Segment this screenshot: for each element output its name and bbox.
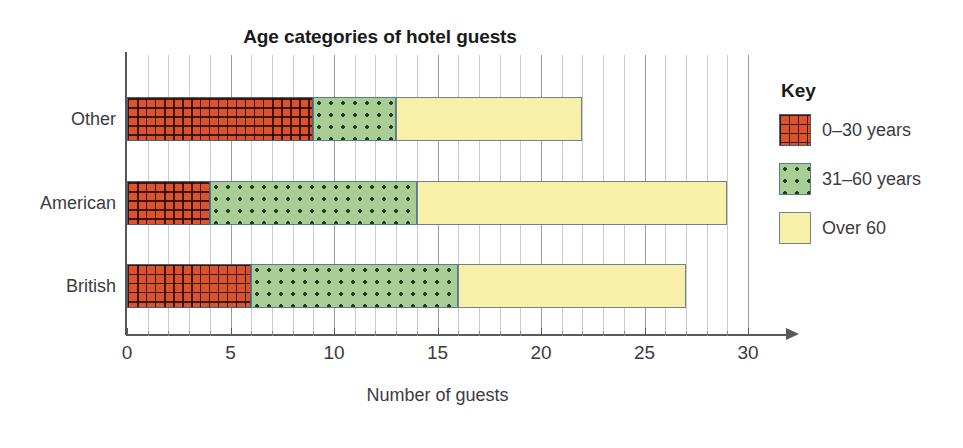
legend-label: 0–30 years [822,120,911,141]
bar-british [127,264,686,308]
bar-segment-british-series-2 [458,264,686,308]
bar-segment-other-series-0 [127,97,313,141]
x-axis-minor-tick [707,331,708,336]
x-axis-tick-label: 25 [634,342,655,364]
x-axis-minor-tick [313,331,314,336]
x-axis-tick [438,328,439,336]
bar-other [127,97,582,141]
x-axis-minor-tick [458,331,459,336]
x-axis-minor-tick [168,331,169,336]
legend-label: 31–60 years [822,169,921,190]
bar-chart: Age categories of hotel guests 051015202… [0,0,963,448]
x-axis-minor-tick [417,331,418,336]
y-axis-category-label-other: Other [0,108,116,129]
x-axis-tick-label: 0 [122,342,133,364]
x-axis-minor-tick [375,331,376,336]
legend-item: 0–30 years [779,114,921,146]
x-axis-minor-tick [520,331,521,336]
x-axis-tick [748,328,749,336]
x-axis-minor-tick [603,331,604,336]
x-axis-minor-tick [665,331,666,336]
y-axis-category-label-british: British [0,275,116,296]
legend-swatch-0 [779,114,811,146]
x-axis-tick-label: 20 [530,342,551,364]
x-axis-minor-tick [251,331,252,336]
x-axis-tick-label: 5 [225,342,236,364]
x-axis-minor-tick [500,331,501,336]
chart-title: Age categories of hotel guests [0,26,760,48]
bar-segment-other-series-1 [313,97,396,141]
x-axis-minor-tick [293,331,294,336]
gridline [727,55,728,332]
legend-item: 31–60 years [779,163,921,195]
bar-american [127,181,727,225]
x-axis-tick [334,328,335,336]
bar-segment-american-series-2 [417,181,728,225]
x-axis-minor-tick [396,331,397,336]
legend-title: Key [781,80,921,102]
x-axis-minor-tick [562,331,563,336]
x-axis-minor-tick [686,331,687,336]
x-axis-minor-tick [148,331,149,336]
x-axis-tick [231,328,232,336]
x-axis-tick [127,328,128,336]
x-axis-minor-tick [272,331,273,336]
x-axis-minor-tick [624,331,625,336]
x-axis-tick [541,328,542,336]
x-axis-tick-label: 30 [737,342,758,364]
bar-segment-american-series-0 [127,181,210,225]
x-axis-tick-label: 15 [427,342,448,364]
x-axis-tick-label: 10 [323,342,344,364]
legend-item: Over 60 [779,212,921,244]
x-axis-tick [645,328,646,336]
bar-segment-british-series-0 [127,264,251,308]
x-axis-label: Number of guests [127,385,748,406]
bar-segment-american-series-1 [210,181,417,225]
bar-segment-british-series-1 [251,264,458,308]
x-axis-minor-tick [479,331,480,336]
x-axis-minor-tick [727,331,728,336]
legend-items: 0–30 years31–60 yearsOver 60 [779,114,921,244]
y-axis-category-label-american: American [0,192,116,213]
legend-label: Over 60 [822,218,886,239]
x-axis-minor-tick [210,331,211,336]
legend-swatch-1 [779,163,811,195]
x-axis-minor-tick [355,331,356,336]
legend-swatch-2 [779,212,811,244]
x-axis-arrow-icon [786,328,799,340]
legend: Key 0–30 years31–60 yearsOver 60 [779,80,921,261]
x-axis-minor-tick [582,331,583,336]
bar-segment-other-series-2 [396,97,582,141]
gridline [748,55,749,332]
x-axis-minor-tick [189,331,190,336]
